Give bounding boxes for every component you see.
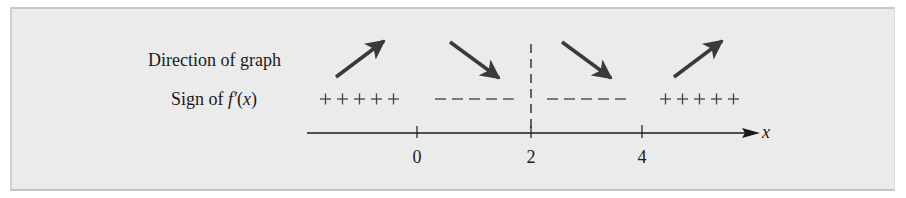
derivative-argument: x bbox=[243, 89, 251, 109]
tick-label-4: 4 bbox=[632, 147, 652, 167]
direction-arrows bbox=[336, 41, 722, 78]
down-right-arrow-icon bbox=[450, 42, 499, 78]
tick-label-2: 2 bbox=[521, 147, 541, 167]
axis-variable-label: x bbox=[762, 122, 770, 142]
sign-chart-diagram bbox=[0, 0, 906, 198]
up-right-arrow-icon bbox=[674, 41, 722, 77]
tick-label-0: 0 bbox=[407, 147, 427, 167]
up-right-arrow-icon bbox=[336, 41, 384, 77]
sign-label-prefix: Sign of bbox=[171, 89, 228, 109]
derivative-symbol: f′ bbox=[228, 89, 237, 109]
number-line bbox=[307, 125, 760, 138]
down-right-arrow-icon bbox=[562, 42, 611, 78]
plus-group-left bbox=[320, 94, 399, 105]
direction-label-text: Direction of graph bbox=[148, 50, 281, 70]
sign-row-label: Sign of f′(x) bbox=[171, 89, 257, 109]
plus-group-right bbox=[660, 94, 739, 105]
sign-plus-marks bbox=[320, 94, 739, 105]
direction-row-label: Direction of graph bbox=[148, 50, 281, 70]
paren-close: ) bbox=[251, 89, 257, 109]
